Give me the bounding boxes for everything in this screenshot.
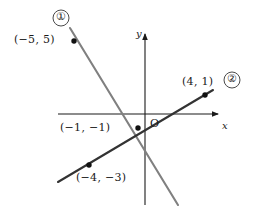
coordinate-plane-figure: ① ② (−5, 5) (−1, −1) (−4, −3) (4, 1) y x…	[0, 0, 255, 214]
line-2	[58, 90, 213, 182]
point-marker-neg1-neg1	[135, 125, 140, 130]
point-label-neg4-neg3: (−4, −3)	[76, 172, 126, 183]
line-label-1: ①	[56, 11, 66, 22]
origin-label: O	[150, 118, 159, 129]
x-axis-label: x	[222, 121, 228, 131]
y-axis-label: y	[136, 29, 142, 39]
point-marker-neg4-neg3	[86, 162, 91, 167]
point-label-neg5-5: (−5, 5)	[14, 34, 55, 45]
point-label-4-1: (4, 1)	[182, 76, 213, 87]
point-label-neg1-neg1: (−1, −1)	[60, 122, 110, 133]
point-marker-neg5-5	[71, 38, 76, 43]
point-marker-4-1	[202, 92, 207, 97]
line-label-2: ②	[227, 73, 237, 84]
